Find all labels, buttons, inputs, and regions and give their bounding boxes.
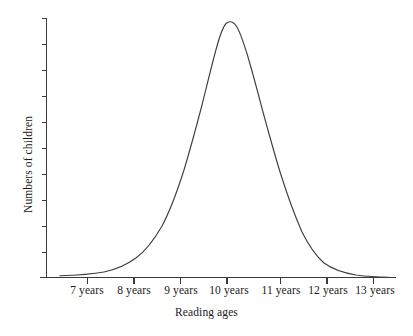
x-axis-title: Reading ages [0,306,413,318]
chart-figure: 7 years 8 years 9 years 10 years 11 year… [0,0,413,336]
xtick-label-10-years: 10 years [209,284,248,296]
xtick-label-7-years: 7 years [70,284,104,296]
xtick-label-12-years: 12 years [308,284,347,296]
x-axis-ticks [88,278,374,284]
xtick-label-13-years: 13 years [355,284,394,296]
xtick-label-11-years: 11 years [261,284,300,296]
xtick-label-9-years: 9 years [164,284,198,296]
chart-plot-area [0,0,413,336]
xtick-label-8-years: 8 years [117,284,151,296]
y-axis-ticks [42,19,47,253]
y-axis-title: Numbers of children [22,116,34,213]
distribution-curve [60,22,389,278]
